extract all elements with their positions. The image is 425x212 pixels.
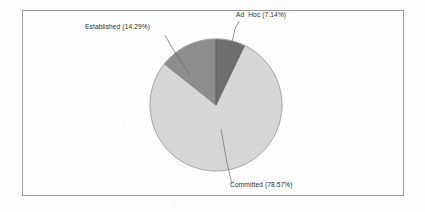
chart-screenshot: Ad Hoc (7.14%) Established (14.29%) Comm… (0, 0, 425, 212)
slice-label-established: Established (14.29%) (85, 24, 150, 31)
pie-chart-plot (23, 11, 403, 195)
slice-label-ad-hoc: Ad Hoc (7.14%) (236, 12, 286, 19)
chart-frame (22, 10, 404, 196)
slice-label-committed: Committed (78.57%) (230, 182, 293, 189)
